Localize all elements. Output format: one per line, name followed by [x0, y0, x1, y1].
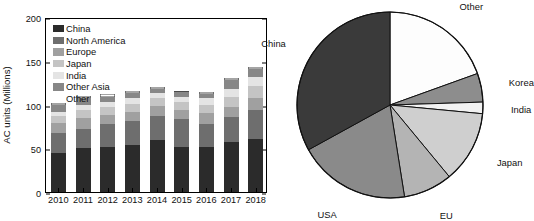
bar-segment	[248, 86, 263, 98]
legend-item: Other	[53, 93, 125, 104]
legend-label: North America	[66, 36, 125, 45]
bar-segment	[174, 102, 189, 110]
bar-segment	[125, 145, 140, 192]
bar-column	[150, 87, 165, 192]
legend-label: Other	[66, 94, 89, 103]
bar-segment	[224, 97, 239, 108]
x-tick-mark	[108, 188, 109, 192]
y-tick-label: 150	[26, 58, 41, 68]
pie-slice-label: USA	[317, 208, 336, 219]
bar-segment	[224, 142, 239, 192]
bar-segment	[174, 119, 189, 147]
pie-slice-label: Korea	[509, 77, 534, 88]
pie-slice-label: Japan	[497, 156, 523, 167]
x-tick-mark	[182, 188, 183, 192]
y-tick-mark-right	[262, 19, 266, 20]
bar-segment	[150, 106, 165, 116]
bar-segment	[224, 117, 239, 142]
bar-segment	[150, 140, 165, 192]
legend-item: China	[53, 23, 125, 34]
legend-swatch	[53, 72, 64, 80]
y-tick-mark	[46, 150, 50, 151]
pie-slice-label: China	[261, 38, 286, 49]
bar-column	[248, 67, 263, 192]
bar-column	[174, 91, 189, 193]
bar-segment	[125, 112, 140, 122]
x-tick-mark	[157, 188, 158, 192]
y-axis-label: AC units (Millions)	[1, 66, 12, 143]
stacked-bar-chart: AC units (Millions) 050100150200 2010201…	[0, 0, 280, 215]
bar-segment	[174, 110, 189, 120]
bar-segment	[248, 77, 263, 86]
bar-segment	[76, 118, 91, 129]
x-tick-label: 2011	[73, 195, 93, 205]
legend-swatch	[53, 48, 64, 56]
pie-slice-label: EU	[440, 210, 453, 221]
bar-chart-legend: ChinaNorth AmericaEuropeJapanIndiaOther …	[53, 23, 125, 104]
legend-item: Other Asia	[53, 81, 125, 92]
legend-label: Japan	[66, 59, 92, 68]
y-tick-mark	[46, 19, 50, 20]
legend-label: Europe	[66, 47, 96, 56]
legend-item: North America	[53, 35, 125, 46]
x-tick-label: 2015	[171, 195, 191, 205]
x-tick-mark	[206, 188, 207, 192]
bar-column	[224, 78, 239, 192]
bar-segment	[76, 148, 91, 192]
legend-swatch	[53, 37, 64, 45]
y-tick-label: 100	[26, 102, 41, 112]
bar-segment	[100, 124, 115, 147]
x-tick-mark	[83, 188, 84, 192]
legend-item: Japan	[53, 58, 125, 69]
x-tick-mark	[58, 188, 59, 192]
bar-segment	[199, 105, 214, 114]
bar-segment	[174, 147, 189, 192]
legend-label: China	[66, 24, 91, 33]
bar-segment	[125, 121, 140, 145]
legend-label: Other Asia	[66, 82, 110, 91]
pie-slice-label: Other	[460, 1, 483, 12]
bar-segment	[248, 98, 263, 109]
bar-column	[51, 103, 66, 192]
legend-label: India	[66, 71, 86, 80]
x-tick-label: 2017	[221, 195, 241, 205]
x-tick-label: 2016	[196, 195, 216, 205]
bar-column	[199, 92, 214, 192]
pie-slice-label: India	[511, 103, 531, 114]
bar-segment	[51, 123, 66, 133]
bar-segment	[51, 133, 66, 153]
y-tick-label: 0	[36, 189, 41, 199]
bar-column	[76, 96, 91, 192]
bar-segment	[224, 107, 239, 117]
legend-swatch	[53, 60, 64, 68]
bar-segment	[248, 69, 263, 78]
y-tick-label: 50	[31, 145, 41, 155]
x-tick-label: 2012	[97, 195, 117, 205]
pie-svg	[280, 0, 521, 215]
pie-chart: OtherKoreaIndiaJapanEUUSAChina	[280, 0, 521, 215]
bar-column	[100, 94, 115, 192]
bar-segment	[51, 153, 66, 192]
legend-item: India	[53, 70, 125, 81]
bar-segment	[51, 116, 66, 123]
x-tick-mark	[256, 188, 257, 192]
x-tick-label: 2018	[245, 195, 265, 205]
bar-column	[125, 91, 140, 193]
bar-segment	[248, 139, 263, 192]
x-tick-label: 2013	[122, 195, 142, 205]
y-tick-label: 200	[26, 14, 41, 24]
bar-plot-area: 050100150200 201020112012201320142015201…	[45, 18, 267, 193]
bar-segment	[125, 104, 140, 112]
x-tick-label: 2014	[147, 195, 167, 205]
legend-swatch	[53, 83, 64, 91]
bar-segment	[76, 110, 91, 118]
bar-segment	[248, 110, 263, 139]
bar-segment	[224, 80, 239, 89]
legend-swatch	[53, 95, 64, 103]
y-tick-mark-right	[262, 62, 266, 63]
y-tick-mark	[46, 106, 50, 107]
legend-swatch	[53, 25, 64, 33]
bar-segment	[76, 129, 91, 148]
bar-segment	[199, 124, 214, 147]
x-tick-mark	[231, 188, 232, 192]
